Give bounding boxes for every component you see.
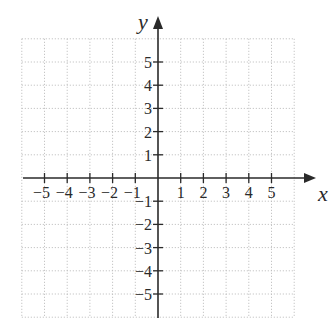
x-tick-label: 4 [245,184,253,201]
coordinate-plane: −5−4−3−2−112345−5−4−3−2−112345 x y [0,0,334,336]
y-tick-label: 1 [144,147,152,164]
x-tick-label: −4 [56,184,73,201]
y-tick-label: −4 [135,263,152,280]
y-axis-arrow-icon [153,16,163,29]
x-tick-label: 3 [222,184,230,201]
y-tick-label: −2 [135,216,152,233]
x-tick-label: −3 [78,184,95,201]
x-tick-label: 2 [199,184,207,201]
y-tick-label: −1 [135,193,152,210]
y-tick-label: 4 [144,77,152,94]
x-tick-label: 1 [177,184,185,201]
x-axis-label: x [317,181,328,206]
y-axis-label: y [136,9,148,34]
y-tick-label: 2 [144,124,152,141]
y-tick-label: 5 [144,54,152,71]
x-tick-label: −2 [101,184,118,201]
y-tick-label: −3 [135,240,152,257]
y-tick-label: −5 [135,286,152,303]
x-tick-label: 5 [268,184,276,201]
x-tick-label: −5 [33,184,50,201]
y-tick-label: 3 [144,100,152,117]
x-axis-arrow-icon [304,173,316,183]
